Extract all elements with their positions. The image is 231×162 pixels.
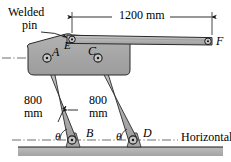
joint-label-a: A	[52, 46, 59, 58]
dimension-1200mm-label: 1200 mm	[119, 9, 165, 21]
joint-label-b: B	[86, 127, 93, 139]
horizontal-label: Horizontal	[181, 131, 231, 143]
pin-joint-a	[43, 54, 51, 62]
left-link-length-line2: mm	[24, 107, 43, 119]
welded-pin-label-line1: Welded	[8, 6, 44, 18]
joint-label-e: E	[64, 40, 71, 51]
right-link-length-line2: mm	[89, 107, 108, 119]
figure-canvas: Welded pin 1200 mm E F A C B D 800 mm 80…	[0, 0, 231, 162]
pin-joint-f	[205, 38, 212, 45]
pin-joint-b	[68, 136, 76, 144]
theta-label-left: θ	[55, 131, 60, 142]
ground-surface	[18, 147, 223, 156]
joint-label-c: C	[88, 45, 96, 57]
theta-label-right: θ	[116, 131, 121, 142]
pin-joint-d	[129, 136, 137, 144]
left-link-length-line1: 800	[24, 94, 42, 106]
right-link-length-line1: 800	[89, 94, 107, 106]
welded-pin-label-line2: pin	[22, 19, 37, 31]
joint-label-d: D	[143, 127, 152, 139]
joint-label-f: F	[216, 35, 223, 47]
